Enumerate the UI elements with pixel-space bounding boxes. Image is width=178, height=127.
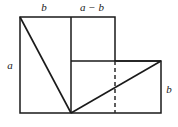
upper-diagonal-line bbox=[20, 17, 71, 113]
label-a-left-side: a bbox=[4, 60, 16, 71]
label-b-right-side: b bbox=[163, 84, 175, 95]
label-b-top: b bbox=[30, 2, 58, 13]
lower-diagonal-line bbox=[71, 61, 161, 113]
label-a-minus-b-top: a − b bbox=[76, 2, 108, 13]
geometry-figure: b a − b a b bbox=[0, 0, 178, 127]
figure-canvas bbox=[0, 0, 178, 127]
outer-boundary-path bbox=[20, 17, 161, 113]
